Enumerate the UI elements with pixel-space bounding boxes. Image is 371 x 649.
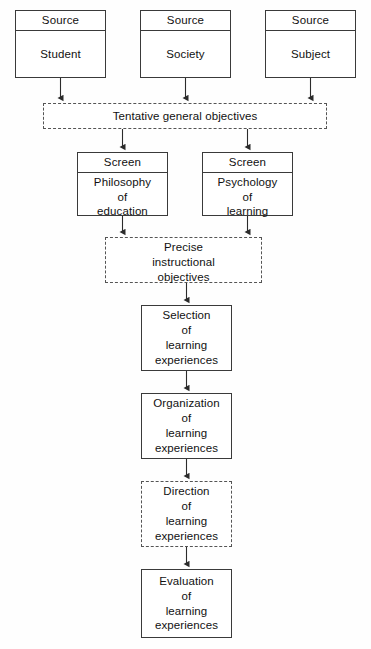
node-body-label: Philosophy of education (94, 175, 151, 219)
node-header-source-student: Source (16, 11, 105, 31)
node-header-source-subject: Source (266, 11, 355, 31)
node-body-label: Organization of learning experiences (153, 396, 219, 456)
node-body-label: Evaluation of learning experiences (155, 574, 218, 634)
node-body-selection-of-learning-experiences: Selection of learning experiences (142, 306, 231, 370)
node-header-source-society: Source (141, 11, 230, 31)
node-body-source-subject: Subject (266, 31, 355, 77)
node-body-label: Society (166, 47, 204, 62)
node-source-subject: SourceSubject (265, 10, 356, 78)
node-body-source-student: Student (16, 31, 105, 77)
node-body-organization-of-learning-experiences: Organization of learning experiences (142, 394, 231, 458)
node-organization-of-learning-experiences: Organization of learning experiences (141, 393, 232, 459)
node-selection-of-learning-experiences: Selection of learning experiences (141, 305, 232, 371)
node-header-screen-psychology: Screen (203, 153, 292, 173)
node-header-label: Source (292, 15, 329, 27)
node-body-label: Student (40, 47, 80, 62)
node-body-label: Subject (291, 47, 330, 62)
node-header-screen-philosophy: Screen (78, 153, 167, 173)
node-body-screen-philosophy: Philosophy of education (78, 173, 167, 221)
node-body-tentative-general-objectives: Tentative general objectives (44, 104, 326, 128)
node-body-evaluation-of-learning-experiences: Evaluation of learning experiences (142, 570, 231, 637)
node-body-label: Direction of learning experiences (155, 484, 218, 544)
node-body-precise-instructional-objectives: Precise instructional objectives (106, 238, 261, 287)
node-direction-of-learning-experiences: Direction of learning experiences (141, 481, 232, 547)
node-evaluation-of-learning-experiences: Evaluation of learning experiences (141, 569, 232, 638)
node-tentative-general-objectives: Tentative general objectives (43, 103, 327, 129)
node-screen-philosophy: ScreenPhilosophy of education (77, 152, 168, 216)
node-header-label: Source (42, 15, 79, 27)
node-header-label: Screen (104, 157, 141, 169)
node-body-label: Selection of learning experiences (155, 308, 218, 368)
node-precise-instructional-objectives: Precise instructional objectives (105, 237, 262, 283)
node-body-direction-of-learning-experiences: Direction of learning experiences (142, 482, 231, 546)
node-body-label: Psychology of learning (218, 175, 278, 219)
node-source-student: SourceStudent (15, 10, 106, 78)
node-body-source-society: Society (141, 31, 230, 77)
node-screen-psychology: ScreenPsychology of learning (202, 152, 293, 216)
node-body-screen-psychology: Psychology of learning (203, 173, 292, 221)
node-header-label: Screen (229, 157, 266, 169)
node-body-label: Precise instructional objectives (152, 240, 215, 285)
node-body-label: Tentative general objectives (113, 109, 258, 124)
node-source-society: SourceSociety (140, 10, 231, 78)
flowchart-diagram: SourceStudentSourceSocietySourceSubjectT… (0, 0, 371, 649)
node-header-label: Source (167, 15, 204, 27)
